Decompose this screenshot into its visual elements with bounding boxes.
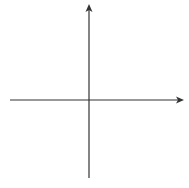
coordinate-plane: [0, 0, 189, 188]
